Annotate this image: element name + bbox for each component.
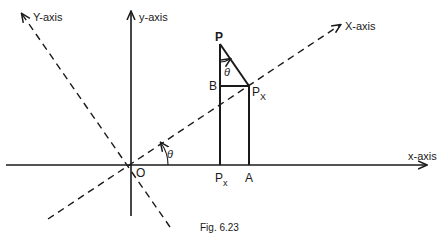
point-A-label: A bbox=[245, 171, 253, 185]
Y-axis-label: Y-axis bbox=[33, 11, 63, 23]
y-axis-label: y-axis bbox=[139, 11, 168, 23]
point-B-label: B bbox=[209, 79, 217, 93]
point-P-label: P bbox=[215, 30, 223, 44]
X-axis-label: X-axis bbox=[345, 20, 376, 32]
point-PX-label: PX bbox=[252, 85, 266, 102]
Y-axis-line bbox=[22, 14, 170, 227]
point-Px-foot-label: Px bbox=[215, 171, 228, 188]
x-axis-label: x-axis bbox=[408, 150, 437, 162]
theta-label-origin: θ bbox=[167, 148, 173, 160]
figure-caption: Fig. 6.23 bbox=[200, 222, 239, 233]
origin-label: O bbox=[136, 166, 145, 180]
coordinate-rotation-diagram: x-axis y-axis X-axis Y-axis O P B PX Px … bbox=[0, 0, 440, 240]
theta-label-P: θ bbox=[224, 66, 230, 78]
angle-theta-arc-P bbox=[220, 59, 230, 62]
X-axis-line bbox=[48, 25, 340, 219]
line-P-to-PX bbox=[220, 44, 249, 86]
